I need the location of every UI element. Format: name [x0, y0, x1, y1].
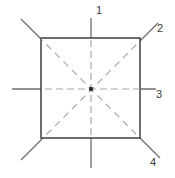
diagram-canvas: 1 2 3 4	[0, 0, 175, 178]
center-point	[89, 87, 93, 91]
axis-label-2: 2	[157, 22, 163, 34]
axis-label-1: 1	[96, 4, 102, 16]
square-axes-diagram: 1 2 3 4	[0, 0, 175, 178]
lines-outside-square	[12, 18, 160, 168]
axis-label-3: 3	[156, 88, 162, 100]
lines-inside-square	[12, 18, 160, 168]
axis-label-4: 4	[150, 156, 156, 168]
